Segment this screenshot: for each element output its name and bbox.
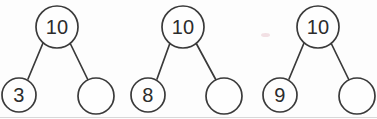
right-node-1-blank[interactable] [78, 78, 114, 114]
right-node-3-blank[interactable] [339, 78, 375, 114]
root-node-2-label: 10 [172, 16, 195, 38]
number-bond-diagram-3: 10 9 [263, 6, 375, 114]
pink-smudge-mark [261, 33, 270, 37]
root-node-3-label: 10 [307, 16, 330, 38]
left-node-2-label: 8 [142, 84, 153, 106]
left-node-1-label: 3 [13, 84, 24, 106]
number-bond-worksheet: 10 3 10 8 10 9 [0, 0, 377, 119]
branch-right-3 [331, 43, 349, 80]
right-node-2-blank[interactable] [206, 78, 242, 114]
number-bond-diagram-2: 10 8 [131, 6, 242, 114]
branch-right-2 [196, 43, 216, 80]
branch-left-3 [289, 43, 304, 79]
left-node-3-label: 9 [274, 84, 285, 106]
number-bond-diagram-1: 10 3 [2, 6, 114, 114]
root-node-1-label: 10 [46, 16, 69, 38]
branch-right-1 [70, 43, 88, 80]
worksheet-canvas: 10 3 10 8 10 9 [0, 0, 377, 119]
branch-left-1 [28, 43, 43, 79]
branch-left-2 [157, 43, 170, 79]
